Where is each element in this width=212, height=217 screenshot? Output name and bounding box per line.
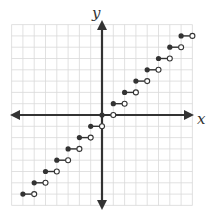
y-axis-label: y bbox=[91, 4, 101, 22]
open-endpoint bbox=[77, 146, 82, 151]
step-function-graph: y x bbox=[0, 0, 212, 217]
open-endpoint bbox=[122, 101, 127, 106]
closed-endpoint bbox=[54, 158, 59, 163]
closed-endpoint bbox=[122, 90, 127, 95]
closed-endpoint bbox=[167, 45, 172, 50]
closed-endpoint bbox=[179, 33, 184, 38]
open-endpoint bbox=[111, 113, 116, 118]
open-endpoint bbox=[54, 169, 59, 174]
open-endpoint bbox=[133, 90, 138, 95]
closed-endpoint bbox=[43, 169, 48, 174]
closed-endpoint bbox=[99, 112, 104, 117]
closed-endpoint bbox=[88, 124, 93, 129]
closed-endpoint bbox=[32, 180, 37, 185]
open-endpoint bbox=[43, 180, 48, 185]
closed-endpoint bbox=[77, 135, 82, 140]
open-endpoint bbox=[167, 56, 172, 61]
axes: y x bbox=[10, 4, 206, 210]
closed-endpoint bbox=[145, 67, 150, 72]
closed-endpoint bbox=[133, 79, 138, 84]
open-endpoint bbox=[100, 124, 105, 129]
closed-endpoint bbox=[66, 146, 71, 151]
open-endpoint bbox=[88, 135, 93, 140]
open-endpoint bbox=[145, 79, 150, 84]
open-endpoint bbox=[156, 67, 161, 72]
closed-endpoint bbox=[20, 192, 25, 197]
x-axis-label: x bbox=[197, 110, 206, 128]
closed-endpoint bbox=[156, 56, 161, 61]
open-endpoint bbox=[66, 158, 71, 163]
closed-endpoint bbox=[111, 101, 116, 106]
open-endpoint bbox=[190, 33, 195, 38]
open-endpoint bbox=[32, 192, 37, 197]
open-endpoint bbox=[179, 45, 184, 50]
